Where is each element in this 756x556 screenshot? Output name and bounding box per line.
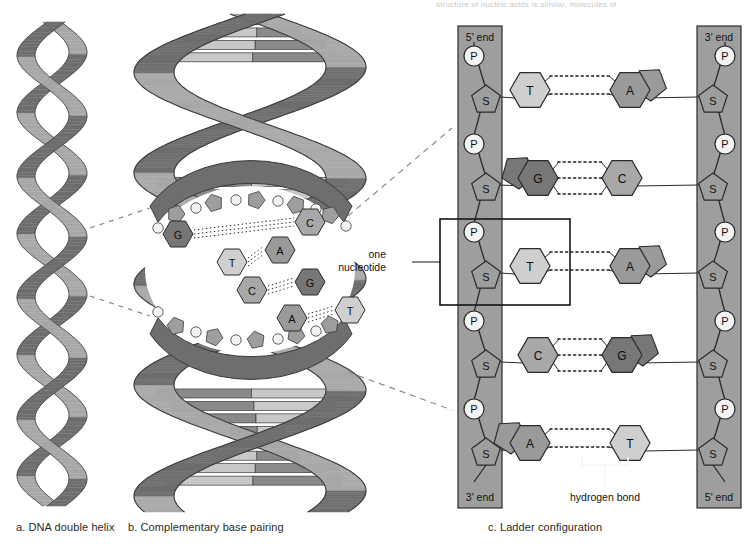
helix-ribbon-segment (69, 412, 87, 415)
helix-ribbon-segment (20, 307, 40, 310)
helix-ribbon-segment (68, 167, 87, 170)
helix-ribbon-segment (18, 302, 37, 305)
helix-ribbon-segment (25, 337, 46, 340)
base-label: T (347, 305, 354, 317)
helix-ribbon-segment (197, 426, 242, 428)
helix-ribbon-segment (135, 165, 176, 167)
helix-ribbon-segment (17, 299, 36, 302)
helix-ribbon-segment (137, 181, 178, 183)
helix-ribbon-segment (324, 72, 365, 74)
helix-ribbon-segment (316, 476, 358, 478)
helix-ribbon-segment (236, 439, 281, 441)
helix-ribbon-segment (326, 391, 366, 393)
helix-ribbon-segment (140, 397, 182, 399)
base-label: A (626, 260, 634, 274)
helix-ribbon-segment (20, 428, 40, 431)
phosphate-label: P (470, 403, 477, 415)
helix-ribbon-segment (185, 135, 230, 137)
helix-ribbon-segment (171, 140, 215, 142)
helix-ribbon-segment (314, 162, 357, 164)
helix-ribbon-segment (323, 169, 364, 171)
helix-ribbon-segment (317, 163, 359, 165)
helix-ribbon-segment (17, 294, 36, 297)
helix-ribbon-segment (187, 33, 232, 35)
helix-ribbon-segment (298, 464, 342, 466)
helix-ribbon-segment (65, 283, 85, 286)
helix-ribbon-segment (17, 116, 36, 119)
helix-ribbon-segment (322, 380, 364, 382)
helix-ribbon-segment (18, 412, 37, 415)
helix-ribbon-segment (18, 291, 37, 294)
helix-ribbon-segment (209, 449, 254, 451)
helix-ribbon-segment (317, 52, 359, 54)
helix-ribbon-segment (158, 96, 202, 98)
helix-ribbon-segment (19, 224, 39, 227)
helix-ribbon-segment (68, 232, 87, 235)
helix-ribbon-segment (139, 60, 181, 62)
helix-ribbon-segment (269, 104, 314, 106)
helix-ribbon-segment (66, 44, 85, 47)
helix-ribbon-segment (134, 384, 174, 386)
helix-ribbon-segment (67, 471, 86, 474)
base-label: A (276, 245, 284, 257)
helix-ribbon-segment (314, 506, 357, 508)
helix-ribbon-segment (256, 135, 301, 137)
helix-ribbon-segment (18, 170, 37, 173)
helix-ribbon-segment (134, 380, 175, 382)
helix-ribbon-segment (67, 122, 86, 125)
phosphate-label: P (470, 50, 477, 62)
helix-ribbon-segment (68, 409, 87, 412)
panel-a-double-helix (17, 22, 87, 506)
phosphate-label: P (721, 226, 728, 238)
helix-ribbon-segment (64, 62, 84, 65)
helix-ribbon-segment (142, 56, 184, 58)
helix-ribbon-segment (146, 478, 189, 480)
helix-ribbon-segment (23, 97, 43, 100)
helix-ribbon-segment (294, 462, 338, 464)
helix-ribbon-segment (17, 420, 36, 423)
helix-ribbon-segment (17, 350, 36, 353)
helix-ribbon-segment (317, 403, 359, 405)
helix-ribbon-segment (142, 399, 184, 401)
helix-ribbon-segment (295, 416, 339, 418)
figure-canvas: structure of nucleic acids is similar, m… (0, 0, 756, 556)
helix-ribbon-segment (17, 57, 36, 60)
helix-ribbon-segment (320, 501, 362, 503)
helix-ribbon-segment (326, 66, 366, 68)
leader-lines-a-b (90, 208, 150, 316)
helix-ribbon-segment (62, 38, 82, 41)
helix-ribbon-segment (264, 106, 309, 108)
one-nucleotide-label-line1: one (368, 248, 386, 260)
helix-ribbon-segment (189, 133, 234, 135)
helix-ribbon-segment (136, 64, 177, 66)
helix-ribbon-segment (159, 146, 203, 148)
caption-a: a. DNA double helix (16, 521, 115, 533)
helix-ribbon-segment (192, 31, 237, 33)
helix-ribbon-segment (310, 85, 353, 87)
helix-ribbon-segment (18, 240, 37, 243)
helix-ribbon-segment (68, 361, 87, 364)
helix-ribbon-segment (18, 119, 37, 122)
helix-ribbon-segment (69, 358, 87, 361)
helix-ribbon-segment (318, 376, 360, 378)
helix-ribbon-segment (309, 158, 352, 160)
helix-ribbon-segment (279, 100, 324, 102)
helix-ribbon-segment (140, 58, 182, 60)
helix-ribbon-segment (323, 382, 364, 384)
helix-ribbon-segment (65, 468, 85, 471)
helix-ribbon-segment (175, 139, 220, 141)
helix-ribbon-segment (145, 366, 188, 368)
helix-ribbon-segment (137, 504, 179, 506)
helix-ribbon-segment (58, 189, 79, 192)
helix-ribbon-segment (266, 451, 311, 453)
helix-ribbon-segment (17, 232, 35, 235)
helix-ribbon-segment (24, 280, 45, 283)
helix-ribbon-segment (19, 425, 39, 428)
helix-ribbon-segment (65, 347, 85, 350)
helix-ribbon-segment (60, 398, 81, 401)
helix-ribbon-segment (66, 286, 85, 289)
helix-ribbon-segment (248, 112, 293, 114)
helix-ribbon-segment (25, 95, 46, 98)
helix-ribbon-segment (280, 457, 325, 459)
helix-ribbon-segment (326, 177, 366, 179)
